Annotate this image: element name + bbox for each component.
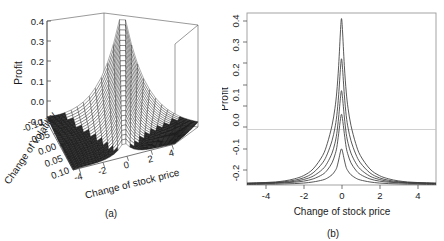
surface-facet	[121, 91, 126, 97]
panel-a-x-tick-1: -2	[97, 164, 108, 177]
panel-a-z-tick-4: 0.0	[31, 96, 44, 107]
surface-facet	[120, 35, 126, 40]
panel-b-x-tick-0: -4	[262, 190, 270, 201]
surface-facet	[142, 148, 146, 150]
panel-a-z-tick-3: 0.1	[31, 76, 44, 87]
panel-b-x-axis: -4 -2 0 2 4 Change of stock price	[262, 185, 421, 217]
panel-b-y-tick-5: -0.1	[230, 139, 241, 155]
panel-b-curves	[247, 19, 436, 185]
surface-facet	[120, 30, 126, 35]
panel-b-y-tick-0: 0.4	[230, 14, 241, 27]
surface-facet	[120, 20, 126, 25]
surface-facet	[121, 81, 126, 87]
surface-facet	[121, 101, 126, 107]
panel-a-surface-plot: 0.4 0.3 0.2 0.1 0.0 -0.1 Profit -0.10 -0…	[0, 0, 222, 241]
surface-facet	[121, 86, 126, 92]
panel-b-y-tick-4: 0.0	[230, 113, 241, 126]
surface-facet	[120, 40, 126, 45]
panel-a-x-tick-2: 0	[122, 159, 130, 171]
surface-facet	[138, 148, 142, 150]
surface-facet	[121, 71, 126, 76]
surface-facet	[121, 106, 126, 112]
surface-facet	[158, 138, 163, 139]
panel-b-x-tick-3: 2	[377, 190, 382, 201]
panel-b-y-tick-3: 0.1	[230, 88, 241, 101]
panel-b-y-tick-1: 0.3	[230, 38, 241, 51]
panel-a-z-axis-label: Profit	[13, 61, 24, 85]
panel-a-x-tick-4: 4	[167, 147, 175, 159]
panel-b-plot-box	[247, 13, 436, 185]
surface-facet	[120, 25, 126, 30]
panel-b-x-axis-label: Change of stock price	[294, 206, 391, 217]
panel-b-y-tick-2: 0.2	[230, 63, 241, 76]
panel-a-z-tick-2: 0.2	[31, 56, 44, 67]
panel-a-caption: (a)	[105, 208, 117, 219]
panel-b-y-tick-6: -0.2	[230, 165, 241, 181]
panel-b-y-axis: 0.4 0.3 0.2 0.1 0.0 -0.1 -0.2 Profit	[222, 14, 247, 181]
panel-b-x-tick-1: -2	[300, 190, 308, 201]
surface-facet	[120, 61, 125, 66]
panel-b-caption: (b)	[327, 228, 339, 239]
profit-curve	[247, 59, 436, 184]
panel-a-x-tick-0: -4	[73, 170, 84, 183]
panel-b-line-plot: 0.4 0.3 0.2 0.1 0.0 -0.1 -0.2 Profit -4 …	[222, 0, 444, 241]
figure-container: 0.4 0.3 0.2 0.1 0.0 -0.1 Profit -0.10 -0…	[0, 0, 444, 241]
surface-facet	[120, 46, 126, 51]
surface-facet	[120, 66, 125, 71]
panel-b-svg: 0.4 0.3 0.2 0.1 0.0 -0.1 -0.2 Profit -4 …	[222, 0, 444, 241]
surface-facet	[120, 56, 126, 61]
profit-curve	[247, 19, 436, 184]
surface-facet	[121, 96, 126, 102]
surface-facet	[146, 148, 151, 150]
panel-a-z-tick-1: 0.3	[31, 36, 44, 47]
surface-facet	[122, 139, 126, 145]
panel-b-y-axis-label: Profit	[222, 87, 230, 111]
profit-curve	[247, 149, 436, 185]
panel-a-z-tick-0: 0.4	[31, 16, 44, 27]
panel-b-x-tick-4: 4	[415, 190, 420, 201]
surface-facet	[121, 110, 126, 116]
panel-a-z-axis: 0.4 0.3 0.2 0.1 0.0 -0.1 Profit	[13, 16, 51, 127]
profit-curve	[247, 91, 436, 184]
panel-b-x-tick-2: 0	[339, 190, 344, 201]
surface-facet	[121, 76, 126, 81]
surface-facet	[120, 51, 126, 56]
panel-a-x-tick-3: 2	[146, 153, 154, 165]
panel-a-surface-mesh	[47, 20, 198, 170]
